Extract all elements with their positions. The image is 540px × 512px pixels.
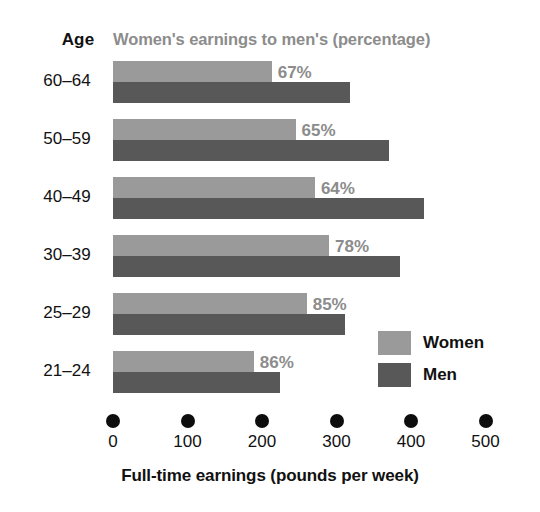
tick-label: 500 (446, 432, 526, 452)
chart-row: 21–2486% (0, 351, 540, 399)
legend-swatch-icon (378, 331, 411, 355)
percentage-label: 65% (302, 121, 336, 141)
tick-dot-icon (106, 414, 120, 428)
bar-men (113, 198, 424, 219)
x-axis: Full-time earnings (pounds per week) 010… (0, 414, 540, 512)
chart-row: 40–4964% (0, 177, 540, 225)
bar-women (113, 61, 272, 82)
category-label: 60–64 (22, 71, 112, 91)
category-label: 30–39 (22, 245, 112, 265)
percentage-label: 67% (278, 63, 312, 83)
legend-label: Women (423, 333, 484, 353)
bar-women (113, 351, 254, 372)
bar-women (113, 177, 315, 198)
category-label: 25–29 (22, 303, 112, 323)
tick-dot-icon (181, 414, 195, 428)
tick-dot-icon (479, 414, 493, 428)
tick-dot-icon (255, 414, 269, 428)
percentage-label: 64% (321, 179, 355, 199)
chart-row: 50–5965% (0, 119, 540, 167)
tick-label: 400 (371, 432, 451, 452)
tick-label: 100 (148, 432, 228, 452)
percentage-label: 78% (335, 237, 369, 257)
tick-label: 200 (222, 432, 302, 452)
category-label: 21–24 (22, 361, 112, 381)
tick-label: 0 (73, 432, 153, 452)
tick-label: 300 (297, 432, 377, 452)
bar-women (113, 293, 307, 314)
bar-men (113, 256, 400, 277)
bar-men (113, 82, 350, 103)
bar-women (113, 119, 296, 140)
legend-swatch-icon (378, 363, 411, 387)
x-axis-title: Full-time earnings (pounds per week) (0, 466, 540, 486)
bar-chart: Age Women's earnings to men's (percentag… (0, 0, 540, 512)
plot-area: 60–6467%50–5965%40–4964%30–3978%25–2985%… (0, 0, 540, 430)
chart-row: 60–6467% (0, 61, 540, 109)
category-label: 50–59 (22, 129, 112, 149)
category-label: 40–49 (22, 187, 112, 207)
tick-dot-icon (404, 414, 418, 428)
legend-label: Men (423, 365, 457, 385)
percentage-label: 86% (260, 353, 294, 373)
bar-men (113, 314, 345, 335)
tick-dot-icon (330, 414, 344, 428)
chart-row: 30–3978% (0, 235, 540, 283)
bar-men (113, 372, 280, 393)
bar-men (113, 140, 389, 161)
bar-women (113, 235, 329, 256)
percentage-label: 85% (313, 295, 347, 315)
